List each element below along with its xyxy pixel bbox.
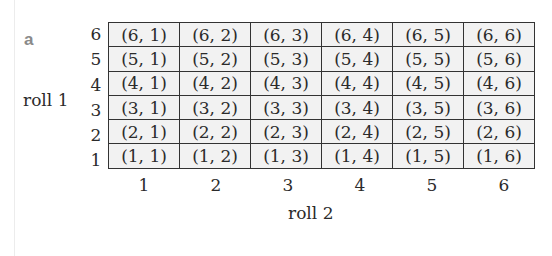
grid-row: (3, 1) (3, 2) (3, 3) (3, 4) (3, 5) (3, 6… bbox=[109, 95, 535, 119]
grid-cell: (2, 2) bbox=[180, 120, 251, 144]
y-tick: 6 bbox=[86, 22, 106, 47]
grid-cell: (4, 2) bbox=[180, 71, 251, 95]
y-tick: 2 bbox=[86, 123, 106, 148]
x-tick: 3 bbox=[252, 175, 324, 195]
grid-cell: (2, 4) bbox=[322, 120, 393, 144]
grid-cell: (5, 1) bbox=[109, 47, 180, 71]
grid-cell: (3, 3) bbox=[251, 95, 322, 119]
page-edge-line bbox=[14, 0, 15, 256]
grid-cell: (5, 5) bbox=[393, 47, 464, 71]
grid-cell: (6, 2) bbox=[180, 23, 251, 47]
y-axis-title: roll 1 bbox=[23, 90, 68, 110]
grid-cell: (5, 3) bbox=[251, 47, 322, 71]
grid-cell: (1, 5) bbox=[393, 144, 464, 168]
grid-cell: (1, 3) bbox=[251, 144, 322, 168]
grid-cell: (4, 1) bbox=[109, 71, 180, 95]
grid-cell: (2, 6) bbox=[464, 120, 535, 144]
x-tick: 6 bbox=[468, 175, 540, 195]
y-axis-ticks: 6 5 4 3 2 1 bbox=[86, 22, 106, 174]
grid-row: (4, 1) (4, 2) (4, 3) (4, 4) (4, 5) (4, 6… bbox=[109, 71, 535, 95]
grid-cell: (6, 3) bbox=[251, 23, 322, 47]
grid-row: (2, 1) (2, 2) (2, 3) (2, 4) (2, 5) (2, 6… bbox=[109, 120, 535, 144]
y-tick: 5 bbox=[86, 47, 106, 72]
x-axis-ticks: 1 2 3 4 5 6 bbox=[108, 175, 540, 195]
grid-cell: (4, 5) bbox=[393, 71, 464, 95]
y-tick: 4 bbox=[86, 73, 106, 98]
grid-cell: (3, 4) bbox=[322, 95, 393, 119]
grid-cell: (1, 2) bbox=[180, 144, 251, 168]
grid-cell: (4, 4) bbox=[322, 71, 393, 95]
grid-cell: (1, 4) bbox=[322, 144, 393, 168]
grid-row: (1, 1) (1, 2) (1, 3) (1, 4) (1, 5) (1, 6… bbox=[109, 144, 535, 168]
x-tick: 5 bbox=[396, 175, 468, 195]
x-tick: 1 bbox=[108, 175, 180, 195]
x-axis-title: roll 2 bbox=[288, 203, 333, 223]
grid-cell: (5, 2) bbox=[180, 47, 251, 71]
grid-row: (5, 1) (5, 2) (5, 3) (5, 4) (5, 5) (5, 6… bbox=[109, 47, 535, 71]
grid-cell: (1, 1) bbox=[109, 144, 180, 168]
grid-cell: (6, 4) bbox=[322, 23, 393, 47]
grid-cell: (6, 1) bbox=[109, 23, 180, 47]
grid-cell: (2, 5) bbox=[393, 120, 464, 144]
outcome-grid: (6, 1) (6, 2) (6, 3) (6, 4) (6, 5) (6, 6… bbox=[108, 22, 535, 169]
grid-cell: (5, 6) bbox=[464, 47, 535, 71]
grid-cell: (2, 3) bbox=[251, 120, 322, 144]
grid-cell: (3, 5) bbox=[393, 95, 464, 119]
x-tick: 2 bbox=[180, 175, 252, 195]
grid-cell: (2, 1) bbox=[109, 120, 180, 144]
grid-cell: (4, 6) bbox=[464, 71, 535, 95]
y-tick: 3 bbox=[86, 98, 106, 123]
grid-cell: (6, 5) bbox=[393, 23, 464, 47]
grid-cell: (5, 4) bbox=[322, 47, 393, 71]
grid-cell: (3, 1) bbox=[109, 95, 180, 119]
grid-cell: (1, 6) bbox=[464, 144, 535, 168]
grid-cell: (3, 6) bbox=[464, 95, 535, 119]
grid-row: (6, 1) (6, 2) (6, 3) (6, 4) (6, 5) (6, 6… bbox=[109, 23, 535, 47]
grid-cell: (6, 6) bbox=[464, 23, 535, 47]
y-tick: 1 bbox=[86, 148, 106, 173]
panel-label: a bbox=[24, 30, 33, 50]
x-tick: 4 bbox=[324, 175, 396, 195]
grid-cell: (4, 3) bbox=[251, 71, 322, 95]
grid-cell: (3, 2) bbox=[180, 95, 251, 119]
